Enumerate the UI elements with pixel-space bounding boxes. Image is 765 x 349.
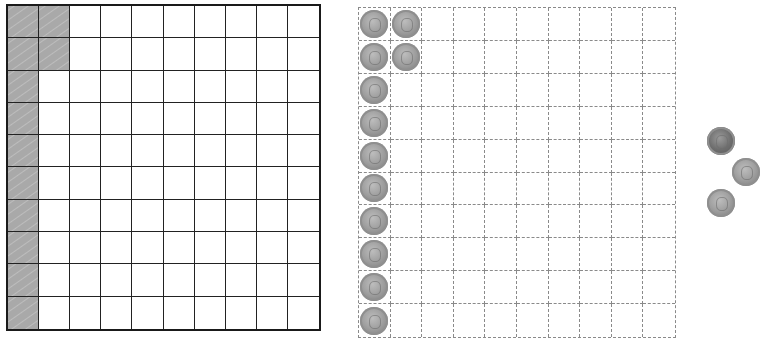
grid-cell: [195, 103, 226, 135]
grid-cell: [422, 271, 454, 304]
grid-cell: [517, 74, 549, 107]
grid-cell: [132, 38, 163, 70]
grid-cell: [288, 297, 319, 329]
coin-icon: [360, 240, 388, 268]
grid-cell: [643, 8, 675, 41]
grid-cell: [485, 74, 517, 107]
grid-cell: [580, 107, 612, 140]
grid-cell: [257, 264, 288, 296]
grid-cell: [359, 271, 391, 304]
grid-cell: [195, 38, 226, 70]
grid-cell: [359, 205, 391, 238]
grid-cell: [422, 205, 454, 238]
grid-cell: [612, 238, 644, 271]
grid-cell: [288, 135, 319, 167]
shaded-cell: [8, 135, 39, 167]
grid-cell: [195, 135, 226, 167]
grid-cell: [612, 41, 644, 74]
grid-cell: [391, 107, 423, 140]
grid-cell: [70, 200, 101, 232]
grid-cell: [132, 135, 163, 167]
grid-cell: [195, 297, 226, 329]
grid-cell: [195, 264, 226, 296]
grid-cell: [70, 135, 101, 167]
grid-cell: [612, 140, 644, 173]
grid-cell: [517, 238, 549, 271]
grid-cell: [226, 264, 257, 296]
grid-cell: [612, 271, 644, 304]
grid-cell: [195, 232, 226, 264]
grid-cell: [195, 200, 226, 232]
grid-cell: [101, 6, 132, 38]
grid-cell: [643, 74, 675, 107]
grid-cell: [422, 8, 454, 41]
grid-cell: [391, 238, 423, 271]
grid-cell: [257, 297, 288, 329]
coin-icon: [392, 43, 420, 71]
grid-cell: [643, 271, 675, 304]
grid-cell: [101, 264, 132, 296]
shaded-cell: [8, 103, 39, 135]
grid-cell: [549, 271, 581, 304]
grid-cell: [132, 200, 163, 232]
grid-cell: [517, 140, 549, 173]
shaded-cell: [8, 200, 39, 232]
grid-cell: [70, 103, 101, 135]
coin-icon: [360, 109, 388, 137]
grid-cell: [164, 6, 195, 38]
grid-cell: [612, 205, 644, 238]
coin-icon: [360, 10, 388, 38]
grid-cell: [101, 135, 132, 167]
grid-cell: [454, 238, 486, 271]
grid-cell: [288, 38, 319, 70]
grid-cell: [70, 297, 101, 329]
shaded-cell: [39, 6, 70, 38]
grid-cell: [226, 135, 257, 167]
grid-cell: [226, 6, 257, 38]
coin-icon: [707, 127, 735, 155]
grid-cell: [132, 6, 163, 38]
grid-cell: [517, 41, 549, 74]
grid-cell: [132, 71, 163, 103]
grid-cell: [612, 173, 644, 206]
grid-cell: [226, 232, 257, 264]
grid-cell: [517, 304, 549, 337]
grid-cell: [391, 205, 423, 238]
grid-cell: [359, 8, 391, 41]
grid-cell: [359, 41, 391, 74]
grid-cell: [580, 140, 612, 173]
grid-cell: [39, 103, 70, 135]
grid-cell: [359, 238, 391, 271]
grid-cell: [643, 205, 675, 238]
grid-cell: [391, 8, 423, 41]
grid-cell: [164, 232, 195, 264]
grid-cell: [485, 271, 517, 304]
grid-cell: [195, 71, 226, 103]
grid-cell: [164, 71, 195, 103]
coin-icon: [360, 174, 388, 202]
grid-cell: [164, 103, 195, 135]
grid-cell: [226, 297, 257, 329]
grid-cell: [39, 297, 70, 329]
grid-cell: [164, 200, 195, 232]
grid-cell: [288, 232, 319, 264]
grid-cell: [257, 200, 288, 232]
grid-cell: [454, 173, 486, 206]
grid-cell: [454, 205, 486, 238]
grid-cell: [643, 41, 675, 74]
grid-cell: [288, 6, 319, 38]
grid-cell: [164, 167, 195, 199]
grid-cell: [70, 6, 101, 38]
grid-cell: [454, 140, 486, 173]
grid-cell: [454, 8, 486, 41]
grid-cell: [549, 74, 581, 107]
grid-cell: [257, 103, 288, 135]
coin-hundred-grid: [358, 7, 676, 338]
grid-cell: [580, 205, 612, 238]
coin-icon: [360, 307, 388, 335]
grid-cell: [70, 264, 101, 296]
grid-cell: [195, 167, 226, 199]
grid-cell: [257, 71, 288, 103]
grid-cell: [517, 107, 549, 140]
grid-cell: [454, 41, 486, 74]
